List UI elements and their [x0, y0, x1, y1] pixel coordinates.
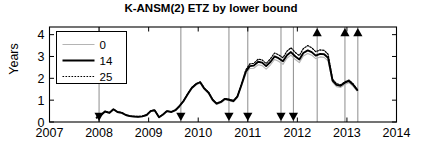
- legend-label-25: 25: [100, 71, 113, 83]
- x-tick-label: 2013: [333, 126, 361, 140]
- y-tick-label: 1: [38, 94, 45, 108]
- legend-label-0: 0: [100, 39, 106, 51]
- series-line-14: [97, 50, 358, 117]
- down-triangle-marker: [94, 113, 103, 121]
- series-line-0: [97, 53, 358, 118]
- y-tick-label: 2: [38, 72, 45, 86]
- plot-canvas: 0123420072008200920102011201220132014014…: [0, 0, 422, 162]
- x-tick-label: 2008: [85, 126, 113, 140]
- legend-box: [57, 32, 127, 84]
- legend-label-14: 14: [100, 55, 113, 67]
- chart-figure: K-ANSM(2) ETZ by lower bound Years 01234…: [0, 0, 422, 162]
- x-tick-label: 2014: [383, 126, 411, 140]
- x-tick-label: 2012: [283, 126, 311, 140]
- y-tick-label: 4: [38, 28, 45, 42]
- down-triangle-marker: [243, 113, 252, 121]
- down-triangle-marker: [224, 113, 233, 121]
- up-triangle-marker: [353, 28, 362, 36]
- up-triangle-marker: [340, 28, 349, 36]
- up-triangle-marker: [313, 28, 322, 36]
- down-triangle-marker: [176, 113, 185, 121]
- series-line-25: [97, 46, 358, 118]
- down-triangle-marker: [276, 113, 285, 121]
- x-tick-label: 2010: [184, 126, 212, 140]
- down-triangle-marker: [289, 113, 298, 121]
- y-tick-label: 3: [38, 50, 45, 64]
- x-tick-label: 2009: [135, 126, 163, 140]
- x-tick-label: 2007: [36, 126, 64, 140]
- x-tick-label: 2011: [234, 126, 261, 140]
